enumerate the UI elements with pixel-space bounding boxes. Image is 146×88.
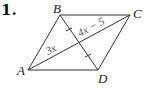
segment-label-ec: 4x − 5 [75, 14, 107, 38]
parallelogram-diagram: B C A D 3x 4x − 5 [0, 0, 146, 88]
tick-mark-ed [85, 54, 91, 57]
vertex-label-d: D [97, 71, 108, 86]
vertex-label-c: C [133, 6, 142, 21]
vertex-label-a: A [16, 63, 25, 78]
vertex-label-b: B [53, 1, 61, 16]
